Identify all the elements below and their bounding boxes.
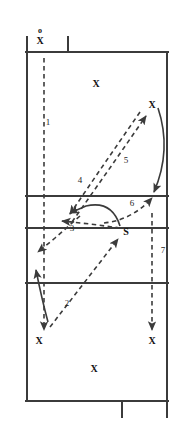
player-server: X	[36, 36, 43, 46]
path-step-5	[72, 116, 146, 222]
step-label-7: 7	[161, 246, 166, 255]
ball-marker: o	[38, 27, 42, 35]
step-label-5: 5	[124, 156, 129, 165]
player-receiver-left: X	[35, 336, 42, 346]
step-label-6: 6	[130, 199, 135, 208]
play-diagram: o X X X X X X S 1 2 3 4 5 6 7	[0, 0, 192, 433]
path-player-run-left	[36, 270, 48, 322]
player-front-right: X	[148, 100, 155, 110]
path-right-swing	[154, 108, 164, 192]
step-label-1: 1	[46, 118, 51, 127]
step-label-3: 3	[70, 224, 75, 233]
player-receiver-mid: X	[90, 364, 97, 374]
step-label-2: 2	[65, 299, 70, 308]
player-back-left: X	[92, 79, 99, 89]
step-label-4: 4	[78, 176, 83, 185]
player-receiver-right: X	[148, 336, 155, 346]
court-lines	[26, 36, 168, 418]
setter-marker: S	[123, 227, 129, 237]
play-paths	[36, 58, 164, 330]
